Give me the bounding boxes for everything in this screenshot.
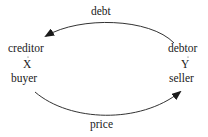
buyer-label: buyer xyxy=(11,73,37,85)
creditor-label: creditor xyxy=(8,43,44,55)
debt-label: debt xyxy=(91,6,111,18)
debt-arrow xyxy=(46,22,174,43)
price-label: price xyxy=(90,119,113,131)
x-variable-label: X xyxy=(23,59,31,71)
y-variable-label: Y xyxy=(181,59,189,71)
debt-price-diagram: debt creditor X buyer debtor Y seller pr… xyxy=(0,0,208,137)
price-arrow xyxy=(35,92,180,115)
seller-label: seller xyxy=(169,73,194,85)
debtor-label: debtor xyxy=(168,43,197,55)
